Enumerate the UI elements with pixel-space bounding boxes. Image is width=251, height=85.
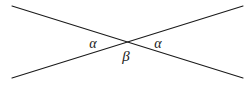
diagram-canvas xyxy=(0,0,251,85)
angle-label-beta-bottom: β xyxy=(122,49,129,64)
vertical-angles-diagram: α α β xyxy=(0,0,251,85)
angle-label-alpha-right: α xyxy=(154,37,161,51)
angle-label-alpha-left: α xyxy=(89,37,96,51)
